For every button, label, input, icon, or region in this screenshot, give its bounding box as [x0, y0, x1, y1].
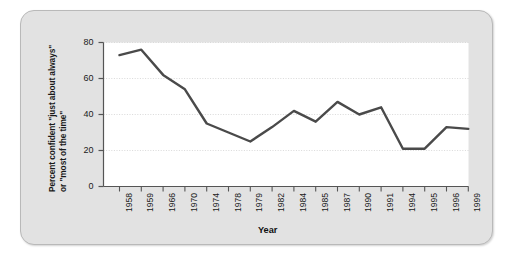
x-tick-label: 1959	[145, 192, 155, 211]
y-axis-title-line1: Percent confident "just about always"	[47, 45, 57, 192]
x-axis-title: Year	[258, 225, 277, 235]
x-tick-label: 1974	[211, 192, 221, 211]
y-tick-label: 40	[70, 109, 94, 119]
x-tick-label: 1985	[320, 192, 330, 211]
x-tick-label: 1999	[472, 192, 482, 211]
x-tick-label: 1984	[298, 192, 308, 211]
y-tick-label: 80	[70, 37, 94, 47]
x-tick-label: 1970	[189, 192, 199, 211]
x-tick-label: 1996	[451, 192, 461, 211]
y-tick-label: 0	[70, 181, 94, 191]
x-tick-label: 1995	[429, 192, 439, 211]
x-tick-label: 1994	[407, 192, 417, 211]
x-axis-ticks	[120, 187, 469, 192]
x-tick-label: 1978	[233, 192, 243, 211]
x-tick-label: 1982	[276, 192, 286, 211]
y-axis-title-line2: or "most of the time"	[58, 111, 68, 192]
x-tick-label: 1987	[342, 192, 352, 211]
y-tick-label: 20	[70, 145, 94, 155]
y-axis-title: Percent confident "just about always" or…	[34, 24, 60, 194]
x-tick-label: 1979	[254, 192, 264, 211]
y-tick-label: 60	[70, 73, 94, 83]
y-axis-ticks	[99, 43, 104, 187]
x-tick-label: 1990	[363, 192, 373, 211]
x-tick-label: 1991	[385, 192, 395, 211]
x-tick-label: 1966	[167, 192, 177, 211]
x-tick-label: 1958	[124, 192, 134, 211]
